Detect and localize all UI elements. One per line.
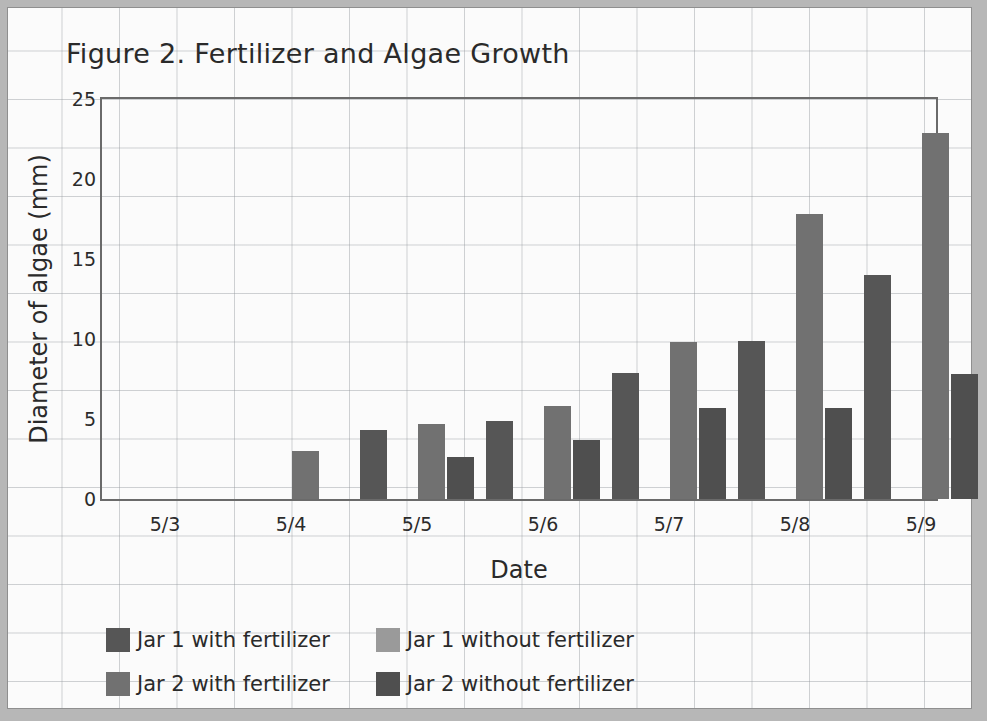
plot-area: 0510152025 5/35/45/55/65/75/85/9 xyxy=(100,97,938,501)
bar xyxy=(447,457,474,499)
bar-group: 5/3 xyxy=(102,99,228,499)
x-axis-tick: 5/8 xyxy=(732,513,858,535)
legend-swatch xyxy=(106,672,130,696)
bar-group: 5/8 xyxy=(732,99,858,499)
scanned-chart-page: Figure 2. Fertilizer and Algae Growth Di… xyxy=(0,0,987,721)
bar xyxy=(922,133,949,499)
legend-item: Jar 2 without fertilizer xyxy=(376,662,634,706)
legend-swatch xyxy=(376,672,400,696)
bar-group: 5/6 xyxy=(480,99,606,499)
legend-item: Jar 1 with fertilizer xyxy=(106,618,364,662)
legend-label: Jar 1 without fertilizer xyxy=(407,628,634,652)
y-axis-tick: 10 xyxy=(72,328,96,350)
bar-group: 5/4 xyxy=(228,99,354,499)
bar xyxy=(825,408,852,499)
bar xyxy=(670,342,697,499)
graph-paper-sheet: Figure 2. Fertilizer and Algae Growth Di… xyxy=(8,8,971,708)
bar-group: 5/7 xyxy=(606,99,732,499)
bar xyxy=(951,374,978,499)
legend-item: Jar 1 without fertilizer xyxy=(376,618,634,662)
bar-group: 5/9 xyxy=(858,99,984,499)
x-axis-tick: 5/7 xyxy=(606,513,732,535)
x-axis-tick: 5/9 xyxy=(858,513,984,535)
x-axis-tick: 5/6 xyxy=(480,513,606,535)
legend-label: Jar 1 with fertilizer xyxy=(137,628,330,652)
bar xyxy=(292,451,319,499)
y-axis-tick: 5 xyxy=(84,408,96,430)
x-axis-label: Date xyxy=(100,556,938,584)
bar-chart: Figure 2. Fertilizer and Algae Growth Di… xyxy=(8,8,971,708)
bar xyxy=(699,408,726,499)
y-axis-label-text: Diameter of algae (mm) xyxy=(25,154,53,444)
bar xyxy=(544,406,571,499)
legend-item: Jar 2 with fertilizer xyxy=(106,662,364,706)
bar xyxy=(418,424,445,499)
legend-label: Jar 2 without fertilizer xyxy=(407,672,634,696)
y-axis-tick: 15 xyxy=(72,248,96,270)
bar xyxy=(796,214,823,499)
bar xyxy=(738,341,765,499)
bar xyxy=(573,440,600,499)
bar xyxy=(360,430,387,499)
legend-swatch xyxy=(376,628,400,652)
y-axis-tick: 25 xyxy=(72,88,96,110)
legend-swatch xyxy=(106,628,130,652)
y-axis-tick: 20 xyxy=(72,168,96,190)
x-axis-tick: 5/3 xyxy=(102,513,228,535)
bar xyxy=(864,275,891,499)
legend-label: Jar 2 with fertilizer xyxy=(137,672,330,696)
x-axis-tick: 5/5 xyxy=(354,513,480,535)
bar-group: 5/5 xyxy=(354,99,480,499)
chart-legend: Jar 1 with fertilizerJar 1 without ferti… xyxy=(106,618,666,706)
bar xyxy=(612,373,639,499)
y-axis-tick: 0 xyxy=(84,488,96,510)
chart-title: Figure 2. Fertilizer and Algae Growth xyxy=(66,38,570,69)
x-axis-tick: 5/4 xyxy=(228,513,354,535)
bar xyxy=(486,421,513,499)
y-axis-label: Diameter of algae (mm) xyxy=(22,97,56,501)
bar-groups: 5/35/45/55/65/75/85/9 xyxy=(102,99,936,499)
